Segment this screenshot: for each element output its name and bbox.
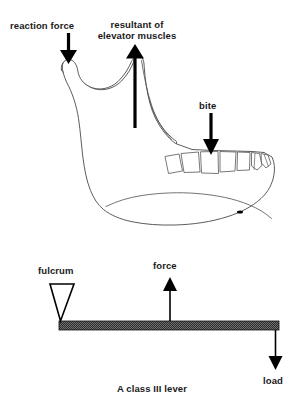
- fulcrum-marker: [50, 284, 74, 321]
- tooth-3: [201, 152, 219, 174]
- fulcrum-triangle-icon: [50, 284, 74, 321]
- elevator-muscles-label-line1: resultant of: [95, 19, 179, 31]
- load-label: load: [263, 375, 283, 387]
- force-arrow-head: [163, 277, 177, 291]
- load-arrow: [269, 330, 283, 370]
- fulcrum-label: fulcrum: [38, 265, 74, 277]
- mandible-outline-path: [62, 56, 274, 225]
- bite-arrow: [203, 113, 219, 155]
- figure-canvas: reaction force resultant of elevator mus…: [0, 0, 303, 408]
- tooth-4: [220, 152, 236, 173]
- load-arrow-head: [269, 356, 283, 370]
- tooth-5: [237, 152, 250, 171]
- lever-bar: [59, 321, 279, 330]
- force-arrow: [163, 277, 177, 321]
- elevator-muscles-arrow-head: [126, 44, 144, 59]
- tooth-2: [181, 152, 200, 173]
- tooth-1: [165, 154, 183, 174]
- reaction-force-arrow: [60, 33, 77, 64]
- mental-foramen-marker: [237, 211, 243, 214]
- elevator-muscles-label-line2: elevator muscles: [95, 30, 179, 42]
- mandible-illustration: [0, 0, 303, 408]
- lever-bar-rect: [59, 321, 279, 330]
- bite-label: bite: [199, 100, 216, 112]
- reaction-force-label: reaction force: [10, 20, 74, 32]
- mandible-silhouette: [62, 56, 274, 225]
- figure-caption: A class III lever: [92, 383, 212, 395]
- force-label: force: [153, 260, 177, 272]
